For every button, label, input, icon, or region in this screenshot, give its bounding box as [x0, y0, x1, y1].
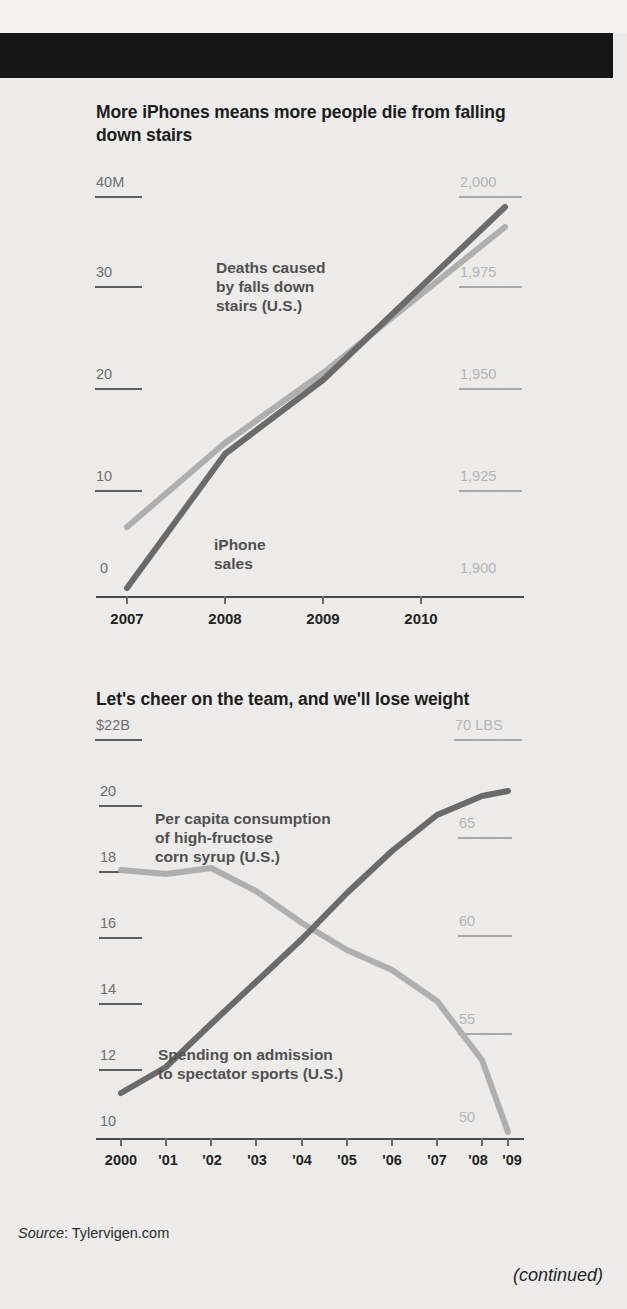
chart-2-x-axis: [96, 1138, 524, 1140]
chart-2-xtick-5: [346, 1138, 348, 1146]
chart-2-series-hfcs: [121, 868, 508, 1132]
chart-2-xlabel-5: '05: [327, 1152, 367, 1168]
chart-1-xlabel-0: 2007: [90, 610, 164, 627]
chart-1-xtick-1: [224, 596, 226, 604]
chart-1-xtick-0: [126, 596, 128, 604]
chart-2-xlabel-2: '02: [192, 1152, 232, 1168]
chart-2-xtick-9: [507, 1138, 509, 1146]
chart-2-spending-annotation: Spending on admission to spectator sport…: [158, 1045, 343, 1083]
continued-label: (continued): [513, 1265, 603, 1286]
chart-2-xlabel-0: 2000: [95, 1152, 147, 1168]
chart-2-xlabel-6: '06: [372, 1152, 412, 1168]
chart-1-xlabel-2: 2009: [286, 610, 360, 627]
chart-1-iphone-annotation: iPhone sales: [214, 535, 266, 573]
chart-2-xtick-7: [436, 1138, 438, 1146]
source-value: Tylervigen.com: [72, 1225, 170, 1241]
chart-1-xtick-2: [322, 596, 324, 604]
chart-2-xlabel-7: '07: [417, 1152, 457, 1168]
chart-2-xtick-4: [301, 1138, 303, 1146]
chart-1-xlabel-1: 2008: [188, 610, 262, 627]
chart-2: $22B 20 18 16 14 12 10 70 LBS 65 60 55 5…: [0, 705, 627, 1185]
page-top-margin: [0, 0, 627, 33]
chart-1-deaths-annotation: Deaths caused by falls down stairs (U.S.…: [216, 258, 325, 315]
chart-1-xtick-3: [420, 596, 422, 604]
chart-1-x-axis: [96, 596, 524, 598]
source-line: Source: Tylervigen.com: [18, 1225, 169, 1241]
chart-2-xlabel-4: '04: [282, 1152, 322, 1168]
chart-2-xtick-3: [255, 1138, 257, 1146]
chart-2-xtick-1: [165, 1138, 167, 1146]
scanned-page: More iPhones means more people die from …: [0, 0, 627, 1309]
source-prefix: Source: [18, 1225, 64, 1241]
source-separator: :: [64, 1225, 72, 1241]
chart-2-xlabel-1: '01: [148, 1152, 188, 1168]
chart-2-xlabel-3: '03: [237, 1152, 277, 1168]
chart-1-title: More iPhones means more people die from …: [96, 101, 526, 147]
chart-1-plot: [0, 160, 627, 635]
header-black-bar: [0, 33, 613, 78]
chart-2-xtick-2: [210, 1138, 212, 1146]
chart-1: 40M 30 20 10 0 2,000 1,975 1,950 1,925 1…: [0, 160, 627, 635]
chart-2-hfcs-annotation: Per capita consumption of high-fructose …: [155, 809, 331, 866]
chart-2-xtick-6: [391, 1138, 393, 1146]
chart-2-xtick-0: [120, 1138, 122, 1146]
chart-2-xtick-8: [481, 1138, 483, 1146]
chart-1-xlabel-3: 2010: [384, 610, 458, 627]
chart-2-xlabel-9: '09: [492, 1152, 532, 1168]
chart-2-plot: [0, 705, 627, 1185]
